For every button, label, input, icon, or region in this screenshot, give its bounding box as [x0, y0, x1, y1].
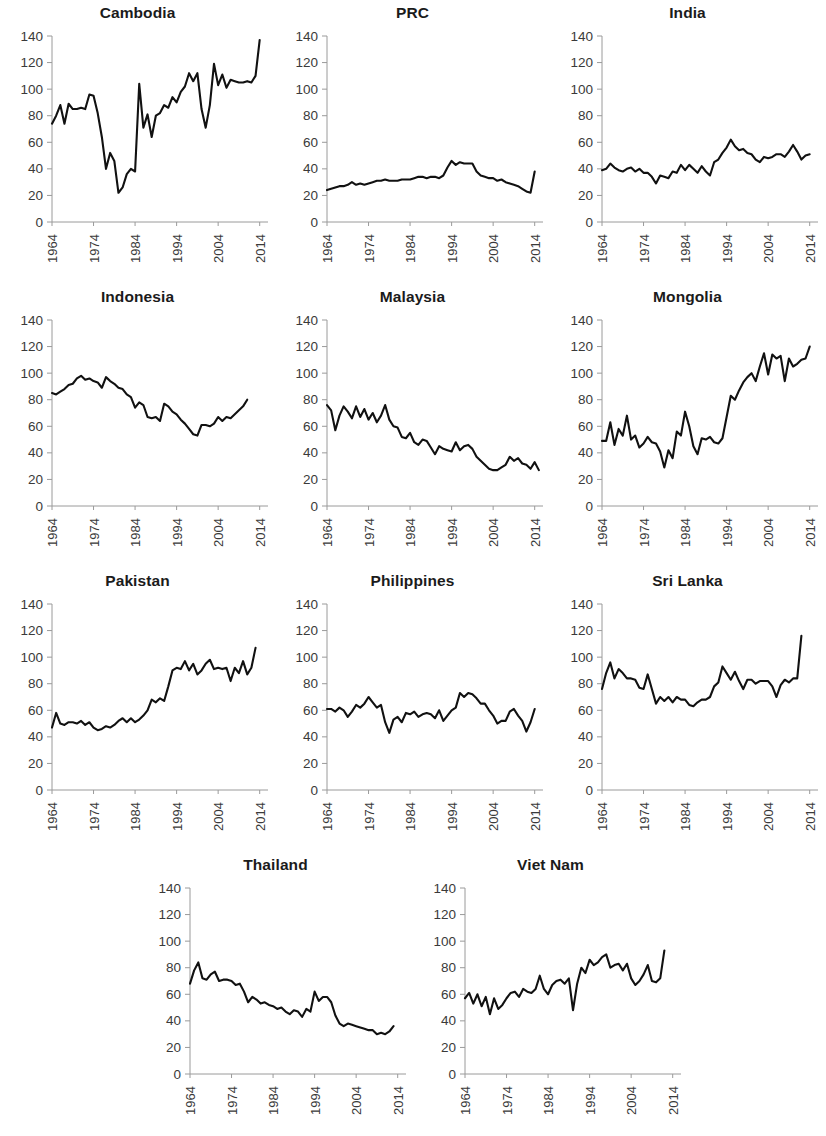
- chart-row-3: Pakistan02040608010012014019641974198419…: [0, 568, 826, 852]
- y-tick-label: 100: [20, 82, 43, 97]
- x-tick-label: 1974: [362, 518, 377, 547]
- y-tick-label: 40: [578, 161, 593, 176]
- y-tick-label: 0: [585, 783, 593, 798]
- y-tick-label: 80: [303, 108, 318, 123]
- chart-panel-indonesia: Indonesia0204060801001201401964197419841…: [0, 284, 275, 568]
- y-tick-label: 60: [28, 703, 43, 718]
- y-tick-label: 60: [303, 135, 318, 150]
- x-tick-label: 1974: [362, 234, 377, 263]
- x-tick-label: 2014: [528, 518, 543, 547]
- y-tick-label: 80: [303, 392, 318, 407]
- x-tick-label: 2014: [528, 234, 543, 263]
- y-tick-label: 20: [578, 472, 593, 487]
- x-tick-label: 2004: [624, 1086, 639, 1115]
- y-tick-label: 100: [570, 650, 593, 665]
- chart-row-4: Thailand02040608010012014019641974198419…: [0, 852, 826, 1136]
- y-tick-label: 100: [295, 82, 318, 97]
- y-tick-label: 80: [166, 960, 181, 975]
- chart-panel-viet-nam: Viet Nam02040608010012014019641974198419…: [413, 852, 688, 1136]
- x-tick-label: 1994: [720, 234, 735, 263]
- x-tick-label: 2004: [761, 234, 776, 263]
- y-tick-label: 0: [310, 499, 318, 514]
- plot-area: 0204060801001201401964197419841994200420…: [550, 594, 825, 850]
- x-tick-label: 1964: [320, 518, 335, 547]
- series-line: [52, 40, 260, 193]
- y-tick-label: 40: [28, 161, 43, 176]
- y-tick-label: 60: [28, 419, 43, 434]
- plot-area: 0204060801001201401964197419841994200420…: [275, 26, 550, 282]
- y-tick-label: 140: [295, 597, 318, 612]
- y-tick-label: 140: [20, 29, 43, 44]
- chart-panel-mongolia: Mongolia02040608010012014019641974198419…: [550, 284, 825, 568]
- multi-panel-line-chart-figure: Cambodia02040608010012014019641974198419…: [0, 0, 826, 1136]
- chart-row-1: Cambodia02040608010012014019641974198419…: [0, 0, 826, 284]
- x-tick-label: 1964: [458, 1086, 473, 1115]
- x-tick-label: 1964: [45, 518, 60, 547]
- panel-title: Pakistan: [0, 568, 275, 594]
- y-tick-label: 0: [448, 1067, 456, 1082]
- x-tick-label: 1994: [308, 1086, 323, 1115]
- y-tick-label: 20: [303, 472, 318, 487]
- panel-title: PRC: [275, 0, 550, 26]
- y-tick-label: 80: [578, 392, 593, 407]
- chart-row-2: Indonesia0204060801001201401964197419841…: [0, 284, 826, 568]
- y-tick-label: 20: [303, 756, 318, 771]
- y-tick-label: 100: [295, 366, 318, 381]
- y-tick-label: 120: [295, 623, 318, 638]
- y-tick-label: 140: [433, 881, 456, 896]
- plot-svg: 0204060801001201401964197419841994200420…: [550, 594, 825, 850]
- y-tick-label: 80: [28, 392, 43, 407]
- x-tick-label: 1974: [87, 234, 102, 263]
- y-tick-label: 60: [28, 135, 43, 150]
- y-tick-label: 60: [578, 703, 593, 718]
- y-tick-label: 60: [303, 419, 318, 434]
- y-tick-label: 0: [35, 499, 43, 514]
- y-tick-label: 140: [20, 313, 43, 328]
- y-tick-label: 100: [295, 650, 318, 665]
- series-line: [602, 140, 810, 184]
- y-tick-label: 140: [295, 29, 318, 44]
- x-tick-label: 1964: [595, 802, 610, 831]
- y-tick-label: 40: [303, 729, 318, 744]
- y-tick-label: 40: [441, 1013, 456, 1028]
- y-tick-label: 120: [570, 623, 593, 638]
- y-tick-label: 140: [570, 313, 593, 328]
- plot-area: 0204060801001201401964197419841994200420…: [0, 594, 275, 850]
- x-tick-label: 2014: [253, 518, 268, 547]
- y-tick-label: 80: [303, 676, 318, 691]
- x-tick-label: 1984: [266, 1086, 281, 1115]
- x-tick-label: 1984: [128, 518, 143, 547]
- plot-svg: 0204060801001201401964197419841994200420…: [0, 310, 275, 566]
- x-tick-label: 1984: [403, 518, 418, 547]
- x-tick-label: 2004: [486, 518, 501, 547]
- chart-panel-prc: PRC0204060801001201401964197419841994200…: [275, 0, 550, 284]
- plot-svg: 0204060801001201401964197419841994200420…: [550, 26, 825, 282]
- x-tick-label: 2004: [211, 234, 226, 263]
- plot-area: 0204060801001201401964197419841994200420…: [0, 310, 275, 566]
- y-tick-label: 20: [28, 756, 43, 771]
- x-tick-label: 1984: [403, 802, 418, 831]
- x-tick-label: 1984: [128, 234, 143, 263]
- y-tick-label: 40: [303, 445, 318, 460]
- x-tick-label: 1984: [678, 802, 693, 831]
- x-tick-label: 1984: [678, 518, 693, 547]
- plot-svg: 0204060801001201401964197419841994200420…: [550, 310, 825, 566]
- y-tick-label: 40: [28, 445, 43, 460]
- chart-panel-philippines: Philippines02040608010012014019641974198…: [275, 568, 550, 852]
- x-tick-label: 1994: [445, 802, 460, 831]
- plot-svg: 0204060801001201401964197419841994200420…: [275, 310, 550, 566]
- y-tick-label: 20: [578, 756, 593, 771]
- y-tick-label: 20: [166, 1040, 181, 1055]
- y-tick-label: 80: [28, 108, 43, 123]
- plot-svg: 0204060801001201401964197419841994200420…: [275, 594, 550, 850]
- series-line: [327, 405, 539, 470]
- plot-svg: 0204060801001201401964197419841994200420…: [275, 26, 550, 282]
- x-tick-label: 1964: [320, 802, 335, 831]
- x-tick-label: 2014: [666, 1086, 681, 1115]
- x-tick-label: 1984: [403, 234, 418, 263]
- x-tick-label: 1984: [678, 234, 693, 263]
- x-tick-label: 1994: [583, 1086, 598, 1115]
- y-tick-label: 120: [433, 907, 456, 922]
- y-tick-label: 60: [578, 135, 593, 150]
- plot-area: 0204060801001201401964197419841994200420…: [138, 878, 413, 1134]
